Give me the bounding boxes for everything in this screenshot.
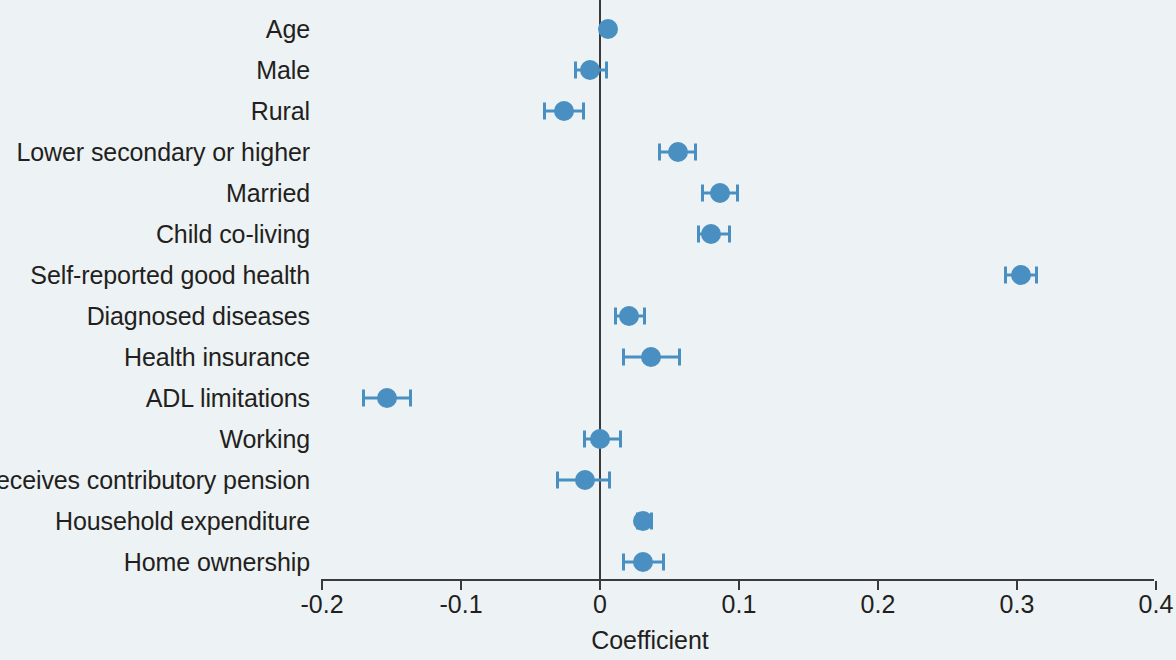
error-bar-cap	[614, 308, 617, 325]
error-bar-cap	[583, 431, 586, 448]
x-axis-tick	[877, 581, 879, 590]
estimate-point	[641, 347, 661, 367]
zero-reference-line	[599, 0, 601, 580]
category-label: Male	[256, 58, 310, 83]
estimate-point	[377, 388, 397, 408]
error-bar-cap	[694, 144, 697, 161]
category-label: Home ownership	[124, 550, 310, 575]
category-label: Health insurance	[124, 345, 310, 370]
error-bar-cap	[362, 390, 365, 407]
category-label: Child co-living	[156, 222, 310, 247]
error-bar-cap	[574, 62, 577, 79]
x-axis-tick	[1155, 581, 1157, 590]
error-bar-cap	[622, 349, 625, 366]
category-label: Self-reported good health	[30, 263, 310, 288]
estimate-point	[590, 429, 610, 449]
estimate-point	[598, 19, 618, 39]
error-bar-cap	[543, 103, 546, 120]
category-label: Lower secondary or higher	[17, 140, 311, 165]
error-bar-cap	[678, 349, 681, 366]
estimate-point	[633, 552, 653, 572]
estimate-point	[668, 142, 688, 162]
x-axis-tick-label: 0	[593, 592, 607, 617]
x-axis-tick-label: 0.1	[722, 592, 757, 617]
x-axis-tick-label: 0.3	[1000, 592, 1035, 617]
estimate-point	[1011, 265, 1031, 285]
category-label: ADL limitations	[146, 386, 310, 411]
x-axis-tick	[1016, 581, 1018, 590]
category-label: Age	[266, 17, 310, 42]
estimate-point	[580, 60, 600, 80]
estimate-point	[701, 224, 721, 244]
error-bar-cap	[658, 144, 661, 161]
error-bar-cap	[736, 185, 739, 202]
x-axis-tick-label: -0.2	[300, 592, 343, 617]
coefficient-plot: AgeMaleRuralLower secondary or higherMar…	[0, 0, 1176, 660]
error-bar-cap	[608, 472, 611, 489]
error-bar-cap	[1035, 267, 1038, 284]
error-bar-cap	[1004, 267, 1007, 284]
estimate-point	[710, 183, 730, 203]
x-axis-tick-label: -0.1	[439, 592, 482, 617]
category-label: Working	[219, 427, 310, 452]
error-bar-cap	[582, 103, 585, 120]
x-axis-tick-label: 0.4	[1139, 592, 1174, 617]
error-bar-cap	[701, 185, 704, 202]
x-axis-tick	[738, 581, 740, 590]
category-label: Rural	[251, 99, 310, 124]
error-bar-cap	[728, 226, 731, 243]
category-label: Diagnosed diseases	[87, 304, 310, 329]
error-bar-cap	[662, 554, 665, 571]
error-bar-cap	[409, 390, 412, 407]
error-bar-cap	[697, 226, 700, 243]
x-axis-tick	[321, 581, 323, 590]
category-label: Married	[226, 181, 310, 206]
estimate-point	[554, 101, 574, 121]
error-bar-cap	[622, 554, 625, 571]
estimate-point	[575, 470, 595, 490]
x-axis-tick	[460, 581, 462, 590]
x-axis-tick	[599, 581, 601, 590]
error-bar-cap	[556, 472, 559, 489]
x-axis-tick-label: 0.2	[861, 592, 896, 617]
category-label: Receives contributory pension	[0, 468, 310, 493]
error-bar-cap	[643, 308, 646, 325]
x-axis-title: Coefficient	[0, 628, 1176, 653]
estimate-point	[633, 511, 653, 531]
estimate-point	[619, 306, 639, 326]
category-label: Household expenditure	[55, 509, 310, 534]
error-bar-cap	[605, 62, 608, 79]
error-bar-cap	[619, 431, 622, 448]
x-axis-title-text: Coefficient	[591, 626, 709, 654]
